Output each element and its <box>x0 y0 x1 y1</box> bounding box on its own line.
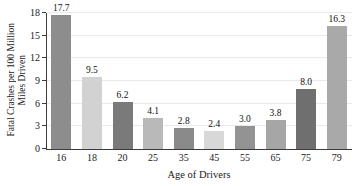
bar-chart: Fatal Crashes per 100 Million Miles Driv… <box>0 0 362 186</box>
y-tick-mark <box>42 148 46 149</box>
bar: 3.8 <box>266 120 286 149</box>
x-tick-label: 65 <box>271 153 281 163</box>
bar-value-label: 16.3 <box>328 14 345 24</box>
bar-value-label: 17.7 <box>53 3 70 13</box>
bar-value-label: 3.8 <box>270 108 282 118</box>
y-tick-mark <box>42 125 46 126</box>
gridline <box>47 35 352 36</box>
bar: 3.0 <box>235 126 255 149</box>
x-tick-label: 75 <box>301 153 311 163</box>
y-tick-label: 18 <box>30 8 40 18</box>
x-tick-label: 79 <box>332 153 342 163</box>
y-tick-mark <box>42 35 46 36</box>
y-axis-title-line2: Miles Driven <box>17 55 28 105</box>
x-tick-label: 16 <box>56 153 66 163</box>
bar: 16.3 <box>327 26 347 149</box>
gridline <box>47 57 352 58</box>
bar: 4.1 <box>143 118 163 149</box>
y-tick-label: 12 <box>30 53 40 63</box>
bar: 2.8 <box>174 128 194 149</box>
x-tick-label: 18 <box>87 153 97 163</box>
x-tick-label: 45 <box>209 153 219 163</box>
y-tick-label: 15 <box>30 31 40 41</box>
gridline <box>47 12 352 13</box>
bar-value-label: 6.2 <box>117 90 129 100</box>
bar-value-label: 8.0 <box>300 77 312 87</box>
y-axis-title-line1: Fatal Crashes per 100 Million <box>6 23 17 136</box>
bar-value-label: 3.0 <box>239 114 251 124</box>
bar: 6.2 <box>113 102 133 149</box>
x-tick-label: 55 <box>240 153 250 163</box>
x-tick-label: 35 <box>179 153 189 163</box>
y-tick-mark <box>42 57 46 58</box>
bar: 17.7 <box>51 15 71 149</box>
x-axis-title: Age of Drivers <box>46 169 352 181</box>
y-axis-line <box>46 13 47 150</box>
bar-value-label: 2.4 <box>208 119 220 129</box>
x-tick-label: 20 <box>118 153 128 163</box>
y-tick-mark <box>42 80 46 81</box>
plot-area: 0369121518 17.79.56.24.12.82.43.03.88.01… <box>46 13 352 150</box>
y-axis-title: Fatal Crashes per 100 Million Miles Driv… <box>0 0 34 160</box>
bar: 9.5 <box>82 77 102 149</box>
bar-value-label: 4.1 <box>147 106 159 116</box>
y-tick-mark <box>42 12 46 13</box>
y-tick-label: 3 <box>35 121 40 131</box>
bar-value-label: 9.5 <box>86 65 98 75</box>
bar: 8.0 <box>296 89 316 149</box>
bar-value-label: 2.8 <box>178 116 190 126</box>
y-tick-label: 0 <box>35 144 40 154</box>
y-tick-label: 6 <box>35 99 40 109</box>
x-axis-line <box>46 149 352 150</box>
y-tick-mark <box>42 103 46 104</box>
x-tick-label: 25 <box>148 153 158 163</box>
y-tick-label: 9 <box>35 76 40 86</box>
bar: 2.4 <box>204 131 224 149</box>
